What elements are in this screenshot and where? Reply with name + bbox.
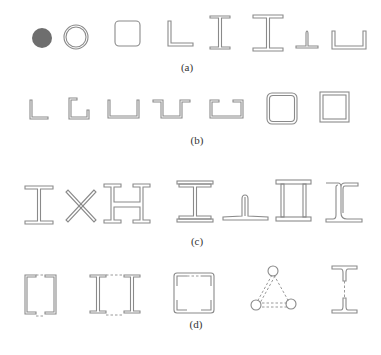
caption-a: (a) bbox=[167, 61, 207, 73]
t-with-angles-shape bbox=[223, 195, 268, 220]
built-up-h-section-shape bbox=[104, 184, 150, 223]
square-tube-shape bbox=[115, 21, 140, 46]
section-shapes-diagram bbox=[0, 0, 381, 355]
equal-angle-shape bbox=[168, 21, 193, 46]
cold-formed-angle-shape bbox=[30, 100, 48, 119]
laced-four-angles-shape bbox=[174, 273, 214, 313]
caption-c: (c) bbox=[177, 235, 217, 247]
caption-b: (b) bbox=[177, 134, 217, 146]
rounded-square-tube-shape bbox=[267, 93, 297, 124]
caption-d: (d) bbox=[176, 318, 216, 330]
solid-round-bar-shape bbox=[32, 28, 52, 48]
wide-flange-h-beam-shape bbox=[253, 15, 283, 51]
square-box-shape bbox=[320, 92, 349, 122]
lipped-channel-shape bbox=[210, 100, 243, 118]
hat-section-shape bbox=[153, 100, 190, 118]
laced-i-beams-shape bbox=[90, 275, 140, 315]
laced-three-tubes-shape bbox=[251, 266, 296, 310]
row-a bbox=[32, 15, 366, 51]
laced-two-t-sections-shape bbox=[332, 266, 357, 313]
box-section-with-plates-shape bbox=[276, 180, 311, 221]
channel-shape bbox=[332, 31, 366, 49]
welded-i-section-shape bbox=[25, 186, 53, 224]
i-with-cover-plates-shape bbox=[177, 181, 213, 222]
row-b bbox=[30, 92, 349, 124]
laced-channels-shape bbox=[25, 275, 56, 316]
row-c bbox=[25, 180, 362, 224]
cold-formed-channel-shape bbox=[108, 100, 139, 118]
row-d bbox=[25, 266, 357, 316]
i-beam-shape bbox=[210, 16, 230, 49]
circular-tube-shape bbox=[64, 25, 88, 49]
cross-section-shape bbox=[66, 190, 96, 222]
t-section-shape bbox=[296, 31, 318, 48]
rail-like-section-shape bbox=[326, 183, 362, 222]
lipped-angle-shape bbox=[69, 98, 89, 119]
